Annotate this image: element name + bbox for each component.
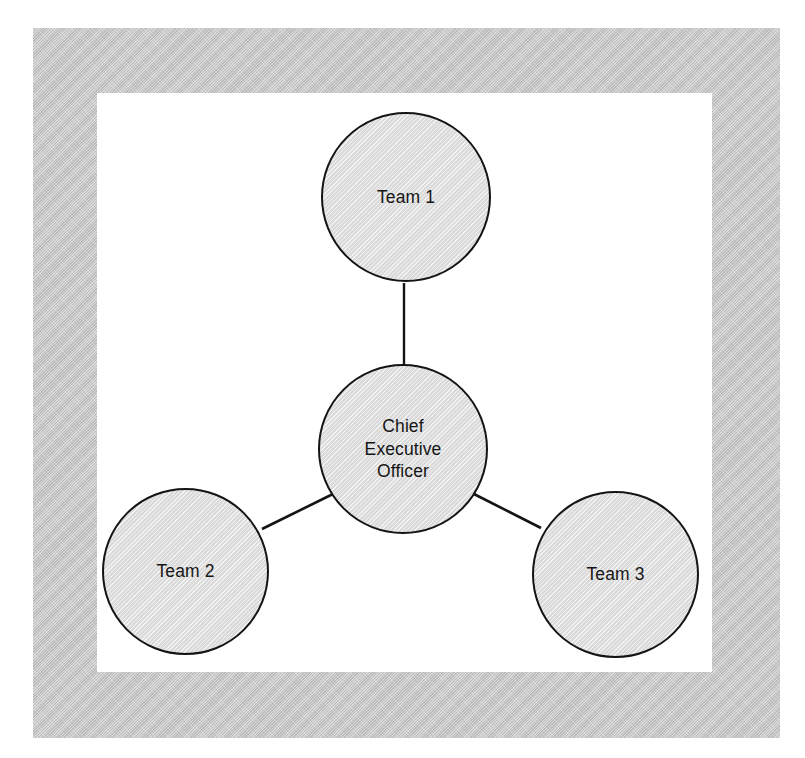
node-team3-label: Team 3 bbox=[579, 563, 653, 586]
node-team2-label: Team 2 bbox=[149, 560, 223, 583]
node-team2[interactable]: Team 2 bbox=[102, 488, 269, 655]
diagram-canvas: Team 1 Chief Executive Officer Team 2 Te… bbox=[0, 0, 805, 758]
node-team1[interactable]: Team 1 bbox=[321, 112, 491, 282]
connector-ceo-team2 bbox=[262, 493, 335, 529]
node-chief-executive-officer[interactable]: Chief Executive Officer bbox=[318, 364, 488, 534]
node-ceo-label: Chief Executive Officer bbox=[357, 415, 450, 483]
node-team3[interactable]: Team 3 bbox=[532, 491, 699, 658]
node-team1-label: Team 1 bbox=[369, 186, 443, 209]
connector-ceo-team3 bbox=[472, 493, 541, 528]
